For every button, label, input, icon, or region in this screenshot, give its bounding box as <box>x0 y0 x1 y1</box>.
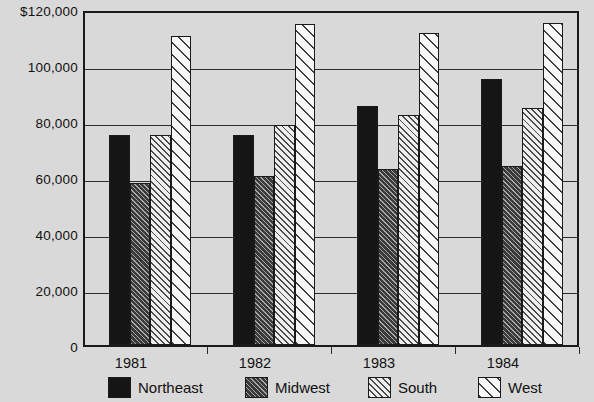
bar-northeast-1982 <box>233 135 254 345</box>
x-tick <box>455 347 456 354</box>
y-tick-label: 80,000 <box>0 116 78 131</box>
legend-label: South <box>398 379 437 396</box>
x-axis-ticks <box>83 347 579 355</box>
bar-south-1982 <box>274 125 295 345</box>
legend-item-northeast[interactable]: Northeast <box>108 377 203 398</box>
x-axis-label-1984: 1984 <box>487 355 519 371</box>
gridline <box>85 69 577 70</box>
legend-swatch-midwest-icon <box>245 377 268 398</box>
legend-item-west[interactable]: West <box>478 377 542 398</box>
bar-midwest-1983 <box>378 169 399 345</box>
gridline <box>85 125 577 126</box>
x-axis-label-1982: 1982 <box>239 355 271 371</box>
bar-northeast-1983 <box>357 106 378 345</box>
bar-midwest-1984 <box>502 166 523 345</box>
y-tick-label: $120,000 <box>0 4 78 19</box>
legend-item-south[interactable]: South <box>368 377 437 398</box>
bar-west-1981 <box>171 36 192 345</box>
y-tick-label: 100,000 <box>0 60 78 75</box>
bar-south-1983 <box>398 115 419 345</box>
y-tick-label: 40,000 <box>0 228 78 243</box>
legend-label: Northeast <box>138 379 203 396</box>
bar-west-1984 <box>543 23 564 345</box>
legend-swatch-northeast-icon <box>108 377 131 398</box>
bar-south-1984 <box>522 108 543 345</box>
x-tick <box>207 347 208 354</box>
bar-south-1981 <box>150 135 171 345</box>
chart-title <box>0 0 594 8</box>
x-tick <box>579 347 580 354</box>
plot-area <box>83 11 579 347</box>
legend-item-midwest[interactable]: Midwest <box>245 377 330 398</box>
y-tick-label: 0 <box>0 340 78 355</box>
x-axis-label-1983: 1983 <box>363 355 395 371</box>
x-tick <box>331 347 332 354</box>
bar-west-1982 <box>295 24 316 345</box>
chart-legend: NortheastMidwestSouthWest <box>83 374 579 400</box>
bar-northeast-1984 <box>481 79 502 345</box>
bar-chart-figure: 020,00040,00060,00080,000100,000$120,000… <box>0 0 594 402</box>
y-axis: 020,00040,00060,00080,000100,000$120,000 <box>0 0 78 402</box>
y-tick-label: 60,000 <box>0 172 78 187</box>
legend-label: West <box>508 379 542 396</box>
bar-midwest-1982 <box>254 176 275 345</box>
legend-swatch-west-icon <box>478 377 501 398</box>
y-tick-label: 20,000 <box>0 284 78 299</box>
legend-swatch-south-icon <box>368 377 391 398</box>
x-axis-label-1981: 1981 <box>115 355 147 371</box>
legend-label: Midwest <box>275 379 330 396</box>
bar-west-1983 <box>419 33 440 345</box>
bar-northeast-1981 <box>109 135 130 345</box>
bar-midwest-1981 <box>130 183 151 345</box>
